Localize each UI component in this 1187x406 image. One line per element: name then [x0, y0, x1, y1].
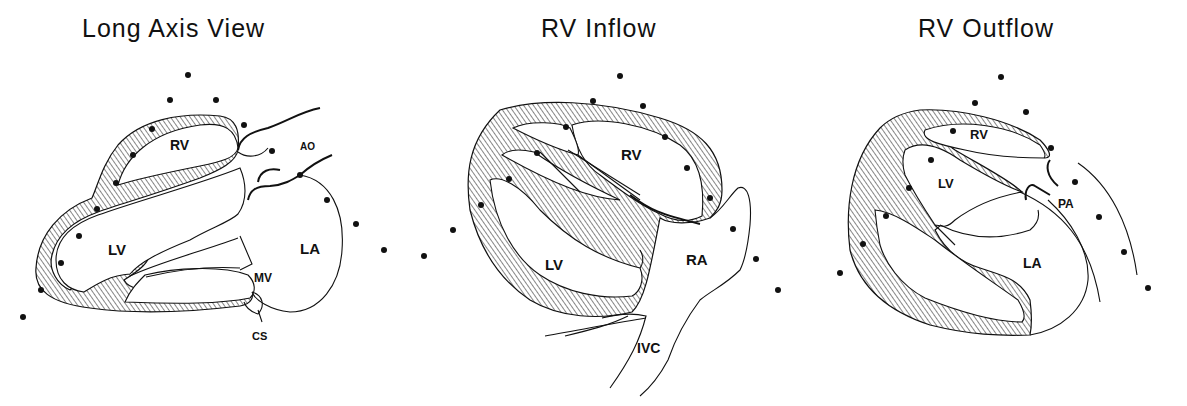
label-la: LA [1023, 255, 1042, 271]
rv-inflow-view: RV LV RA IVC [421, 73, 781, 396]
rv-outflow-pulmonic-cusp-2 [1048, 160, 1058, 186]
label-cs: CS [252, 330, 267, 342]
label-la: LA [300, 240, 320, 257]
long-axis-view: RV AO LV LA MV CS [20, 72, 387, 342]
echo-views-diagram: RV AO LV LA MV CS [0, 0, 1187, 406]
long-axis-mv-bracket [240, 236, 252, 270]
label-lv: LV [938, 176, 954, 191]
label-rv: RV [970, 127, 988, 142]
label-ra: RA [686, 251, 708, 268]
rv-outflow-pa-anterior-wall [1078, 163, 1137, 275]
long-axis-aortic-root-la [248, 155, 332, 200]
long-axis-aortic-valve [238, 148, 268, 156]
label-pa: PA [1058, 197, 1074, 211]
long-axis-posterior-cavity [125, 269, 254, 304]
label-rv: RV [621, 146, 642, 163]
label-lv: LV [545, 256, 563, 273]
label-lv: LV [108, 241, 126, 258]
long-axis-la-outline [252, 175, 342, 312]
rv-outflow-view: RV LV PA LA [837, 74, 1151, 335]
rv-inflow-ivc-bottom [545, 318, 646, 336]
label-mv: MV [254, 271, 272, 285]
rv-inflow-ivc-left [565, 316, 628, 336]
long-axis-aorta-posterior-wall [258, 169, 280, 182]
label-ao: AO [300, 141, 315, 152]
rv-outflow-pulmonic-cusp-1 [1026, 185, 1050, 200]
label-ivc: IVC [637, 340, 660, 356]
label-rv: RV [170, 137, 190, 153]
